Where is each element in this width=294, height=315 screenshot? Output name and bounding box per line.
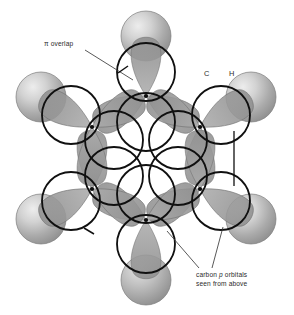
carbon-vertex: [144, 218, 148, 222]
pi-overlap-leader-line: [85, 50, 133, 80]
p-orbital-lobe-group: [34, 37, 259, 279]
carbon-p-orbital-leader-line: [167, 231, 199, 268]
carbon-vertex: [90, 187, 94, 191]
pi-overlap-bracket-tick-lower-left: [84, 228, 94, 234]
caption-text-part: seen from above: [196, 280, 247, 287]
caption-text-part: orbitals: [223, 271, 247, 278]
p-orbital-lobe: [131, 37, 161, 96]
pi-overlap-label: π overlap: [44, 40, 73, 48]
caption-text-part: carbon: [196, 271, 219, 278]
carbon-p-orbitals-caption: carbon p orbitalsseen from above: [196, 271, 282, 288]
carbon-atom-label: C: [204, 70, 210, 78]
pi-overlap-bracket-tick: [118, 66, 128, 73]
carbon-p-orbital-leader-line: [212, 227, 223, 268]
benzene-pi-orbital-diagram: π overlap C H carbon p orbitalsseen from…: [0, 0, 294, 315]
carbon-vertex: [198, 187, 202, 191]
carbon-vertex: [198, 125, 202, 129]
carbon-vertex: [90, 125, 94, 129]
carbon-vertex: [144, 94, 148, 98]
p-orbital-lobe: [131, 220, 161, 279]
hydrogen-atom-label: H: [229, 70, 235, 78]
